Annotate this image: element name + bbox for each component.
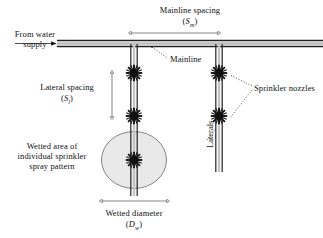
wetted-diameter-symbol: (Dw) — [84, 219, 184, 233]
from-water-supply-label: From water supply — [4, 29, 66, 49]
wetted-area-line1: Wetted area of — [4, 141, 100, 151]
wetted-diameter-label: Wetted diameter (Dw) — [84, 208, 184, 233]
mainline-spacing-symbol: (Sm) — [135, 16, 245, 30]
leader-nozzle-upper — [230, 75, 252, 86]
wetted-diameter-text: Wetted diameter — [84, 208, 184, 218]
wetted-area-label: Wetted area of individual sprinkler spra… — [4, 141, 100, 171]
leader-nozzle-lower — [230, 90, 252, 118]
sprinkler-nozzle — [211, 65, 227, 81]
water-supply-line2: supply — [4, 39, 66, 49]
lateral-spacing-label: Lateral spacing (Sl) — [28, 82, 106, 107]
sprinkler-nozzle — [126, 152, 142, 168]
mainline-spacing-label: Mainline spacing (Sm) — [135, 5, 245, 30]
sprinkler-nozzles-label: Sprinkler nozzles — [254, 83, 315, 93]
mainline-label: Mainline — [170, 54, 202, 64]
figure-canvas: Mainline spacing (Sm) From water supply … — [0, 0, 323, 238]
mainline-spacing-text: Mainline spacing — [135, 5, 245, 15]
lateral-spacing-text: Lateral spacing — [28, 82, 106, 92]
sprinkler-nozzle — [126, 108, 142, 124]
laterals-label: Laterals — [205, 121, 215, 148]
mainline-pipe — [57, 41, 323, 47]
lateral-spacing-symbol: (Sl) — [28, 93, 106, 107]
wetted-area-line2: individual sprinkler — [4, 151, 100, 161]
wetted-area-line3: spray pattern — [4, 161, 100, 171]
water-supply-line1: From water — [4, 29, 66, 39]
sprinkler-nozzle — [126, 65, 142, 81]
leader-mainline — [152, 47, 167, 58]
